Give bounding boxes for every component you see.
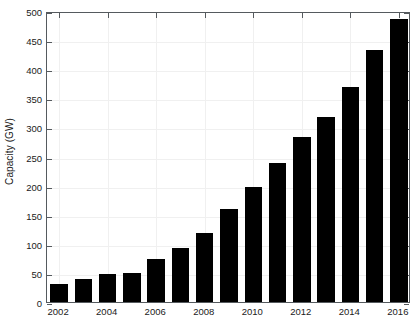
bar (390, 19, 407, 302)
y-axis-tick (47, 42, 52, 43)
y-axis-tick (47, 246, 52, 247)
x-axis-tick-label: 2012 (290, 306, 311, 317)
bar (147, 259, 164, 302)
y-axis-tick-label: 500 (8, 7, 42, 18)
y-axis-tick (47, 129, 52, 130)
bar (269, 163, 286, 302)
bar (220, 209, 237, 302)
x-axis-tick (108, 13, 109, 18)
x-axis-tick-label: 2006 (145, 306, 166, 317)
y-axis-tick-label: 250 (8, 152, 42, 163)
gridline-horizontal (47, 71, 409, 72)
x-axis-tick-label: 2010 (242, 306, 263, 317)
y-axis-tick-label: 300 (8, 123, 42, 134)
y-axis-tick (47, 100, 52, 101)
x-axis-tick (399, 13, 400, 18)
y-axis-tick-label: 400 (8, 65, 42, 76)
bar (99, 274, 116, 302)
x-axis-tick (350, 13, 351, 18)
bar (342, 87, 359, 302)
y-axis-tick (404, 304, 409, 305)
plot-area (46, 12, 410, 303)
y-axis-tick (47, 159, 52, 160)
y-axis-tick (47, 275, 52, 276)
x-axis-tick (156, 13, 157, 18)
y-axis-tick-label: 450 (8, 36, 42, 47)
y-axis-tick-label: 350 (8, 94, 42, 105)
y-axis-tick (404, 13, 409, 14)
x-axis-tick-label: 2008 (193, 306, 214, 317)
y-axis-tick-label: 150 (8, 210, 42, 221)
x-axis-tick (253, 13, 254, 18)
bar (172, 248, 189, 302)
bar (75, 279, 92, 302)
x-axis-tick-label: 2002 (48, 306, 69, 317)
bar (196, 233, 213, 302)
chart-figure: Capacity (GW) 05010015020025030035040045… (0, 0, 416, 334)
y-axis-tick (47, 188, 52, 189)
y-axis-tick-label: 100 (8, 239, 42, 250)
gridline-vertical (59, 13, 60, 302)
y-axis-tick (47, 71, 52, 72)
y-axis-tick (47, 13, 52, 14)
y-axis-tick-label: 200 (8, 181, 42, 192)
x-axis-tick (302, 13, 303, 18)
gridline-horizontal (47, 42, 409, 43)
gridline-vertical (108, 13, 109, 302)
bar (317, 117, 334, 302)
x-axis-tick-label: 2016 (387, 306, 408, 317)
x-axis-tick-label: 2004 (96, 306, 117, 317)
y-axis-tick-label: 50 (8, 268, 42, 279)
x-axis-tick (59, 13, 60, 18)
y-axis-tick-label: 0 (8, 298, 42, 309)
x-axis-tick-label: 2014 (339, 306, 360, 317)
bar (245, 187, 262, 302)
y-axis-tick (47, 217, 52, 218)
bar (293, 137, 310, 302)
y-axis-tick (47, 304, 52, 305)
bar (123, 273, 140, 302)
bar (50, 284, 67, 302)
bar (366, 50, 383, 302)
x-axis-tick (205, 13, 206, 18)
